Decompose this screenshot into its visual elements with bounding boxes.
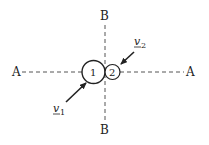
body-1-label: 1: [90, 67, 96, 78]
axis-a-right-label: A: [185, 65, 195, 79]
svg-text:1: 1: [60, 108, 65, 117]
svg-text:2: 2: [141, 41, 146, 50]
velocity-2-label: v 2: [134, 35, 146, 50]
body-2-label: 2: [109, 67, 115, 78]
velocity-1-label: v 1: [53, 102, 65, 117]
svg-text:v: v: [134, 35, 141, 48]
svg-text:v: v: [53, 102, 60, 115]
axis-a-left-label: A: [11, 65, 21, 79]
axis-b-top-label: B: [100, 9, 109, 23]
velocity-2-arrow: [121, 52, 134, 64]
axis-b-bottom-label: B: [100, 123, 109, 137]
collision-diagram: A A B B 1 2 v 1 v 2: [0, 0, 209, 145]
velocity-1-arrow: [66, 83, 86, 102]
